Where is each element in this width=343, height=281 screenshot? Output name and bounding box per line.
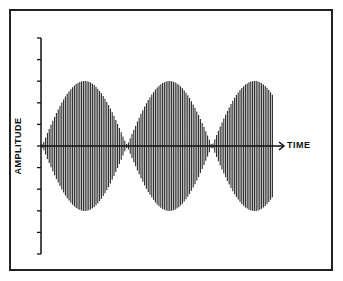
y-axis-label: AMPLITUDE bbox=[13, 118, 23, 175]
x-axis-label: TIME bbox=[287, 140, 311, 150]
y-axis bbox=[37, 38, 41, 254]
